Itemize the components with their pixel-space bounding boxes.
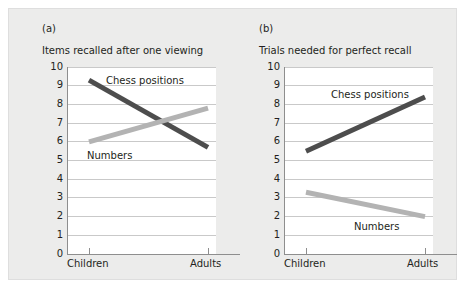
panel-a-ytick-4: 4 xyxy=(57,174,63,184)
panel-b-label-chess-positions: Chess positions xyxy=(331,89,409,100)
figure-container: (a) Items recalled after one viewing 012… xyxy=(8,8,457,280)
panel-a-ytick-9: 9 xyxy=(57,80,63,90)
panel-b-ytick-9: 9 xyxy=(274,80,280,90)
panel-b-ytick-4: 4 xyxy=(274,174,280,184)
panel-a-ytick-3: 3 xyxy=(57,192,63,202)
panel-a-title: Items recalled after one viewing xyxy=(42,45,203,56)
panel-a-xtick-adults: Adults xyxy=(190,258,221,269)
panel-a-label-numbers: Numbers xyxy=(87,150,132,161)
panel-a-x-axis-extension xyxy=(216,254,240,255)
panel-a-label-chess-positions: Chess positions xyxy=(106,75,184,86)
panel-a-ytick-6: 6 xyxy=(57,136,63,146)
panel-a: (a) Items recalled after one viewing 012… xyxy=(23,9,247,281)
panel-b-ytick-0: 0 xyxy=(274,249,280,259)
panel-a-ytick-10: 10 xyxy=(50,62,63,72)
panel-b-line-chess-positions xyxy=(306,97,425,151)
panel-b-ytick-2: 2 xyxy=(274,211,280,221)
panel-b-xtick-children: Children xyxy=(284,258,326,269)
panel-a-ytick-1: 1 xyxy=(57,230,63,240)
panel-b-ytick-10: 10 xyxy=(267,62,280,72)
panel-b-xtick-adults: Adults xyxy=(407,258,438,269)
panel-a-tag: (a) xyxy=(42,23,56,34)
panel-a-xtick-children: Children xyxy=(67,258,109,269)
panel-a-ytick-7: 7 xyxy=(57,118,63,128)
panel-b-ytick-6: 6 xyxy=(274,136,280,146)
panel-b-x-axis-extension xyxy=(433,254,457,255)
panel-a-ytick-2: 2 xyxy=(57,211,63,221)
panel-a-ytick-8: 8 xyxy=(57,99,63,109)
panel-b-x-axis xyxy=(284,254,433,255)
panel-a-ytick-0: 0 xyxy=(57,249,63,259)
panel-a-ytick-5: 5 xyxy=(57,155,63,165)
panel-a-x-axis xyxy=(67,254,216,255)
panel-b-tag: (b) xyxy=(259,23,273,34)
panel-b-ytick-3: 3 xyxy=(274,192,280,202)
panel-b-title: Trials needed for perfect recall xyxy=(259,45,412,56)
panel-b-ytick-7: 7 xyxy=(274,118,280,128)
panel-b: (b) Trials needed for perfect recall 012… xyxy=(240,9,464,281)
panel-b-ytick-1: 1 xyxy=(274,230,280,240)
panel-b-line-numbers xyxy=(306,192,425,216)
panel-b-ytick-8: 8 xyxy=(274,99,280,109)
panel-b-ytick-5: 5 xyxy=(274,155,280,165)
panel-b-label-numbers: Numbers xyxy=(354,221,399,232)
